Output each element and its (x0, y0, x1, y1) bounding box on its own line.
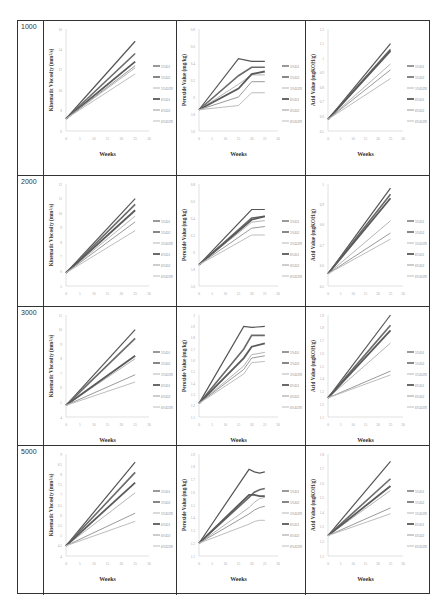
legend-entry: 5%O2 (415, 362, 424, 366)
svg-text:30: 30 (276, 423, 280, 427)
svg-text:20: 20 (376, 562, 380, 566)
row-1000: 10006810121416051015202530Kinematic Visc… (18, 21, 429, 175)
svg-text:30: 30 (147, 137, 151, 141)
legend-entry: 5%O1 (290, 490, 299, 494)
x-axis-label: Weeks (230, 576, 247, 582)
peroxide-line-chart: 1.11.21.31.41.51.61.71.81.92051015202530… (177, 307, 306, 446)
svg-text:1.4: 1.4 (191, 516, 196, 520)
legend-entry: 6%O3N (161, 120, 173, 124)
legend-entry: 6%O1 (161, 253, 170, 257)
svg-text:0: 0 (65, 562, 67, 566)
row-label: 2000 (18, 176, 44, 306)
legend-entry: 6%O1 (290, 98, 299, 102)
legend-entry: 5%O3N (161, 242, 173, 246)
y-axis-label: Acid Value (mgKOH/g) (310, 54, 317, 106)
svg-text:1.6: 1.6 (191, 491, 196, 495)
series-line (66, 231, 135, 273)
svg-text:0.6: 0.6 (320, 115, 325, 119)
legend-entry: 5%O3N (415, 373, 427, 377)
svg-text:15: 15 (364, 562, 368, 566)
svg-text:1.1: 1.1 (191, 416, 196, 420)
series-line (328, 486, 391, 536)
legend-entry: 5%O2 (290, 76, 299, 80)
svg-text:0: 0 (198, 292, 200, 296)
svg-text:1.5: 1.5 (320, 496, 325, 500)
svg-text:1.2: 1.2 (320, 403, 325, 407)
svg-text:15: 15 (237, 292, 241, 296)
legend-entry: 6%O2 (161, 109, 170, 113)
series-line (66, 53, 135, 118)
svg-text:0.7: 0.7 (320, 100, 325, 104)
series-line (328, 233, 391, 274)
svg-text:15: 15 (106, 423, 110, 427)
svg-text:1.3: 1.3 (320, 525, 325, 529)
svg-text:20: 20 (120, 292, 124, 296)
viscosity-line-chart: 44.555.566.577.588.59051015202530Kinemat… (44, 446, 177, 596)
legend-entry: 5%O3N (290, 373, 302, 377)
legend-entry: 6%O3N (290, 275, 302, 279)
svg-text:12: 12 (59, 68, 63, 72)
svg-text:0.5: 0.5 (320, 130, 325, 134)
svg-text:1.7: 1.7 (320, 339, 325, 343)
caption-stub (18, 601, 78, 605)
legend-entry: 6%O2 (161, 395, 170, 399)
svg-text:25: 25 (263, 562, 267, 566)
svg-text:12: 12 (59, 183, 63, 187)
series-line (66, 493, 135, 546)
series-line (199, 235, 265, 265)
svg-text:0.6: 0.6 (320, 264, 325, 268)
row-2000: 200056789101112051015202530Kinematic Vis… (18, 175, 429, 306)
svg-text:8.5: 8.5 (58, 463, 63, 467)
svg-text:5: 5 (340, 292, 342, 296)
svg-text:1.3: 1.3 (320, 390, 325, 394)
svg-text:0: 0 (198, 137, 200, 141)
series-line (328, 315, 391, 398)
svg-text:0: 0 (327, 292, 329, 296)
legend-entry: 5%O1 (161, 220, 170, 224)
svg-text:15: 15 (106, 292, 110, 296)
svg-text:30: 30 (147, 423, 151, 427)
y-axis-label: Kinematic Viscosity (mm²/s) (48, 204, 55, 267)
y-axis-label: Kinematic Viscosity (mm²/s) (48, 335, 55, 398)
svg-text:20: 20 (120, 562, 124, 566)
svg-text:25: 25 (133, 292, 137, 296)
legend-entry: 6%O3N (290, 406, 302, 410)
svg-text:7: 7 (60, 493, 62, 497)
viscosity-line-chart: 56789101112051015202530Kinematic Viscosi… (44, 176, 177, 307)
chart-cell-viscosity: 6810121416051015202530Kinematic Viscosit… (44, 21, 177, 175)
svg-text:10: 10 (351, 137, 355, 141)
svg-text:16: 16 (59, 28, 63, 32)
legend-entry: 6%O3N (161, 275, 173, 279)
peroxide-line-chart: 1.11.21.31.41.51.61.71.81.9051015202530P… (177, 446, 306, 596)
svg-text:0: 0 (198, 562, 200, 566)
legend-entry: 6%O1 (415, 253, 424, 257)
y-axis-label: Peroxide Value (mg/kg) (181, 209, 188, 261)
svg-text:9: 9 (60, 226, 62, 230)
series-line (199, 497, 265, 543)
legend-entry: 5%O2 (161, 501, 170, 505)
svg-text:1: 1 (322, 183, 324, 187)
svg-text:6.2: 6.2 (191, 79, 196, 83)
x-axis-label: Weeks (99, 151, 116, 157)
series-line (328, 64, 391, 119)
svg-text:20: 20 (120, 137, 124, 141)
series-line (328, 508, 391, 536)
legend-entry: 6%O1 (290, 523, 299, 527)
svg-text:8: 8 (60, 473, 62, 477)
legend-entry: 5%O1 (290, 220, 299, 224)
legend-entry: 6%O1 (415, 523, 424, 527)
svg-text:1.8: 1.8 (320, 326, 325, 330)
svg-text:20: 20 (250, 423, 254, 427)
svg-text:30: 30 (401, 562, 405, 566)
x-axis-label: Weeks (357, 576, 374, 582)
legend-entry: 6%O3N (415, 120, 427, 124)
svg-text:30: 30 (147, 562, 151, 566)
svg-text:25: 25 (389, 562, 393, 566)
legend-entry: 5%O1 (161, 351, 170, 355)
legend-entry: 5%O2 (161, 362, 170, 366)
svg-text:20: 20 (250, 562, 254, 566)
series-line (328, 70, 391, 120)
svg-text:5: 5 (340, 137, 342, 141)
legend-entry: 5%O3N (290, 512, 302, 516)
svg-text:5: 5 (211, 292, 213, 296)
